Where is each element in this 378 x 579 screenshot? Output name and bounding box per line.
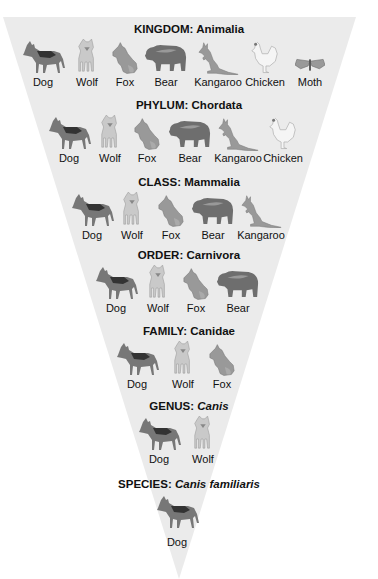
- chicken-icon: [249, 40, 281, 75]
- wolf-icon: [147, 264, 169, 301]
- bear-icon: [216, 270, 260, 301]
- dog-icon: [94, 265, 138, 301]
- fox-icon: [182, 268, 210, 301]
- wolf-icon: [76, 38, 98, 75]
- animal-fox: Fox: [181, 268, 211, 314]
- animal-wolf: Wolf: [143, 264, 173, 314]
- level-title: CLASS: Mammalia: [0, 176, 378, 188]
- animal-fox: Fox: [132, 118, 162, 164]
- animal-dog: Dog: [155, 494, 199, 548]
- dog-icon: [21, 39, 65, 75]
- animal-dog: Dog: [115, 341, 159, 390]
- animal-fox: Fox: [110, 42, 140, 88]
- animal-kangaroo: Kangaroo: [212, 117, 264, 164]
- kangaroo-icon: [217, 117, 259, 151]
- animal-kangaroo: Kangaroo: [235, 194, 287, 241]
- dog-icon: [70, 192, 114, 228]
- animal-dog: Dog: [70, 192, 114, 241]
- animal-wolf: Wolf: [72, 38, 102, 88]
- level-title: ORDER: Carnivora: [0, 249, 378, 261]
- wolf-icon: [192, 415, 214, 452]
- level-title: PHYLUM: Chordata: [0, 99, 378, 111]
- kangaroo-icon: [197, 41, 239, 75]
- animal-wolf: Wolf: [168, 340, 198, 390]
- animal-bear: Bear: [190, 197, 236, 241]
- animal-wolf: Wolf: [188, 415, 218, 465]
- animal-chicken: Chicken: [245, 40, 285, 88]
- animal-bear: Bear: [143, 44, 189, 88]
- dog-icon: [155, 494, 199, 530]
- kangaroo-icon: [240, 194, 282, 228]
- animal-moth: Moth: [292, 55, 328, 88]
- animal-dog: Dog: [94, 265, 138, 314]
- fox-icon: [208, 344, 236, 377]
- dog-icon: [47, 115, 91, 151]
- animal-wolf: Wolf: [95, 114, 125, 164]
- animal-wolf: Wolf: [117, 191, 147, 241]
- animal-bear: Bear: [215, 270, 261, 314]
- animal-kangaroo: Kangaroo: [192, 41, 244, 88]
- wolf-icon: [121, 191, 143, 228]
- chicken-icon: [267, 116, 299, 151]
- moth-icon: [295, 55, 325, 75]
- animal-fox: Fox: [156, 195, 186, 241]
- fox-icon: [133, 118, 161, 151]
- animal-chicken: Chicken: [263, 116, 303, 164]
- animal-dog: Dog: [137, 416, 181, 465]
- level-title: GENUS: Canis: [0, 400, 378, 412]
- dog-icon: [137, 416, 181, 452]
- dog-icon: [115, 341, 159, 377]
- bear-icon: [168, 120, 212, 151]
- wolf-icon: [99, 114, 121, 151]
- level-title: SPECIES: Canis familiaris: [0, 478, 378, 490]
- bear-icon: [144, 44, 188, 75]
- animal-dog: Dog: [47, 115, 91, 164]
- bear-icon: [191, 197, 235, 228]
- fox-icon: [157, 195, 185, 228]
- wolf-icon: [172, 340, 194, 377]
- animal-bear: Bear: [167, 120, 213, 164]
- animal-dog: Dog: [21, 39, 65, 88]
- fox-icon: [111, 42, 139, 75]
- animal-fox: Fox: [207, 344, 237, 390]
- level-title: FAMILY: Canidae: [0, 325, 378, 337]
- level-title: KINGDOM: Animalia: [0, 23, 378, 35]
